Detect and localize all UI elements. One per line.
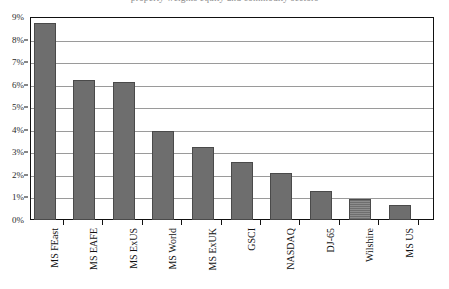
bar — [113, 82, 135, 220]
y-axis-tick-label: 0% — [12, 216, 24, 225]
y-axis-tick-mark — [24, 62, 28, 63]
x-axis-tick-mark — [102, 220, 103, 225]
y-axis: 0%1%2%3%4%5%6%7%8%9% — [0, 17, 28, 220]
bar-series — [30, 17, 434, 220]
bar — [389, 205, 411, 220]
y-axis-tick-label: 4% — [12, 125, 24, 134]
x-axis-tick-mark — [299, 220, 300, 225]
bar — [192, 147, 214, 220]
x-axis-tick-mark — [181, 220, 182, 225]
y-axis-tick-mark — [24, 152, 28, 153]
y-axis-tick-label: 5% — [12, 103, 24, 112]
bar — [34, 23, 56, 220]
x-axis-tick-mark — [142, 220, 143, 225]
x-axis-tick-mark — [418, 220, 419, 225]
y-axis-tick-mark — [24, 39, 28, 40]
x-axis-tick-label: MS World — [168, 228, 178, 270]
chart-title: property weights equity and commodity se… — [0, 0, 449, 6]
bar — [152, 131, 174, 220]
x-axis: MS FEastMS EAFEMS ExUSMS WorldMS ExUKGSC… — [30, 220, 434, 289]
y-axis-tick-mark — [24, 174, 28, 175]
x-axis-tick-mark — [63, 220, 64, 225]
y-axis-tick-label: 8% — [12, 35, 24, 44]
x-axis-tick-mark — [339, 220, 340, 225]
x-axis-tick-mark — [378, 220, 379, 225]
y-axis-tick-label: 7% — [12, 58, 24, 67]
bar — [310, 191, 332, 220]
x-axis-tick-mark — [221, 220, 222, 225]
x-axis-tick-label: MS ExUK — [208, 228, 218, 271]
x-axis-tick-mark — [260, 220, 261, 225]
y-axis-tick-mark — [24, 84, 28, 85]
bar — [73, 80, 95, 220]
y-axis-tick-label: 6% — [12, 80, 24, 89]
x-axis-tick-label: MS US — [405, 228, 415, 258]
y-axis-tick-mark — [24, 129, 28, 130]
y-axis-tick-mark — [24, 107, 28, 108]
y-axis-tick-label: 2% — [12, 170, 24, 179]
bar — [270, 173, 292, 220]
x-axis-tick-label: MS ExUS — [129, 228, 139, 269]
x-axis-tick-label: Wilshire — [365, 228, 375, 262]
x-axis-tick-label: MS EAFE — [89, 228, 99, 270]
y-axis-tick-label: 3% — [12, 148, 24, 157]
x-axis-tick-label: GSCI — [247, 228, 257, 251]
x-axis-tick-label: DJ-65 — [326, 228, 336, 252]
y-axis-tick-label: 1% — [12, 193, 24, 202]
y-axis-tick-label: 9% — [12, 13, 24, 22]
x-axis-tick-label: NASDAQ — [286, 228, 296, 270]
bar — [231, 162, 253, 220]
bar — [349, 199, 371, 220]
x-axis-tick-label: MS FEast — [50, 228, 60, 268]
y-axis-tick-mark — [24, 197, 28, 198]
